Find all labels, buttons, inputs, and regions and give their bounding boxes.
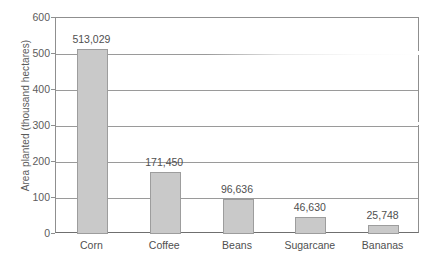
y-tick-mark-0 bbox=[51, 233, 55, 234]
y-tick-label-500: 500 bbox=[10, 47, 50, 59]
y-tick-label-300: 300 bbox=[10, 119, 50, 131]
bar-coffee bbox=[150, 172, 181, 234]
y-tick-label-100: 100 bbox=[10, 191, 50, 203]
y-tick-label-0: 0 bbox=[10, 227, 50, 239]
bar-value-coffee: 171,450 bbox=[145, 156, 183, 168]
x-label-corn: Corn bbox=[80, 239, 103, 251]
bar-beans bbox=[223, 199, 254, 234]
x-label-coffee: Coffee bbox=[149, 239, 180, 251]
scan-artifact-streak-secondary bbox=[271, 122, 421, 125]
gridline-500 bbox=[56, 54, 418, 55]
x-label-beans: Beans bbox=[222, 239, 252, 251]
x-label-sugarcane: Sugarcane bbox=[284, 239, 335, 251]
y-tick-label-600: 600 bbox=[10, 11, 50, 23]
bar-value-beans: 96,636 bbox=[221, 183, 253, 195]
bar-sugarcane bbox=[295, 217, 326, 234]
plot-area bbox=[55, 17, 419, 233]
bar-bananas bbox=[368, 225, 399, 234]
y-tick-label-200: 200 bbox=[10, 155, 50, 167]
bar-value-corn: 513,029 bbox=[72, 33, 110, 45]
x-label-bananas: Bananas bbox=[362, 239, 403, 251]
bar-chart: Area planted (thousand hectares) 0100200… bbox=[0, 0, 430, 267]
gridline-400 bbox=[56, 90, 418, 91]
gridline-200 bbox=[56, 162, 418, 163]
bar-corn bbox=[77, 49, 108, 234]
y-tick-label-400: 400 bbox=[10, 83, 50, 95]
gridline-300 bbox=[56, 126, 418, 127]
bar-value-bananas: 25,748 bbox=[367, 209, 399, 221]
bar-value-sugarcane: 46,630 bbox=[294, 201, 326, 213]
